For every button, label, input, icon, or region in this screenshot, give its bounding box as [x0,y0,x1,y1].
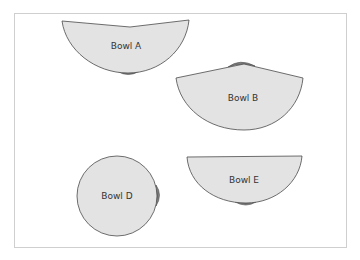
bowl-a: Bowl A [62,20,189,75]
bowls-diagram: Bowl A Bowl B Bowl D Bowl E [0,0,360,260]
bowl-a-label: Bowl A [111,41,142,51]
bowl-b: Bowl B [176,62,303,130]
bowl-e: Bowl E [187,156,302,205]
bowl-d: Bowl D [77,156,160,236]
bowl-b-label: Bowl B [228,93,259,103]
bowl-e-label: Bowl E [229,175,259,185]
bowl-d-label: Bowl D [101,191,132,201]
